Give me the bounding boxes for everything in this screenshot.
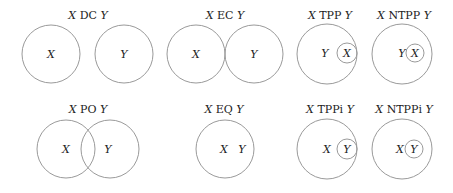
rcc8-diagram: X DC Y X Y X EC Y X Y X TPP Y Y X X NTPP… [0, 0, 453, 193]
region-x-label: X [191, 48, 201, 61]
region-y-label: Y [343, 143, 352, 156]
relation-label: X NTPPi Y [374, 103, 434, 116]
region-x-label: X [395, 143, 405, 156]
region-x-label: X [46, 48, 56, 61]
region-x-label: X [342, 47, 352, 60]
relation-ntppi: X NTPPi Y X Y [372, 103, 434, 179]
region-y-label: Y [321, 47, 330, 60]
relation-label: X EC Y [205, 9, 246, 22]
relation-label: X DC Y [67, 9, 109, 22]
relation-eq: X EQ Y X Y [196, 103, 254, 178]
region-y-label: Y [250, 48, 259, 61]
relation-dc: X DC Y X Y [22, 9, 153, 83]
region-x-label: X [410, 47, 420, 60]
relation-label: X EQ Y [203, 103, 245, 116]
region-y-label: Y [238, 143, 247, 156]
relation-label: X TPP Y [307, 9, 354, 22]
region-x-label: X [322, 143, 332, 156]
relation-tpp: X TPP Y Y X [297, 9, 357, 84]
relation-tppi: X TPPi Y X Y [297, 103, 357, 179]
relation-label: X TPPi Y [305, 103, 356, 116]
relation-po: X PO Y X Y [37, 103, 139, 178]
relation-ntpp: X NTPP Y Y X [372, 9, 433, 84]
region-y-label: Y [410, 143, 419, 156]
region-x-label: X [61, 143, 71, 156]
relation-label: X PO Y [68, 103, 109, 116]
region-y-label: Y [104, 143, 113, 156]
relation-label: X NTPP Y [376, 9, 433, 22]
region-y-label: Y [120, 48, 129, 61]
relation-ec: X EC Y X Y [167, 9, 283, 83]
region-x-label: X [219, 143, 229, 156]
